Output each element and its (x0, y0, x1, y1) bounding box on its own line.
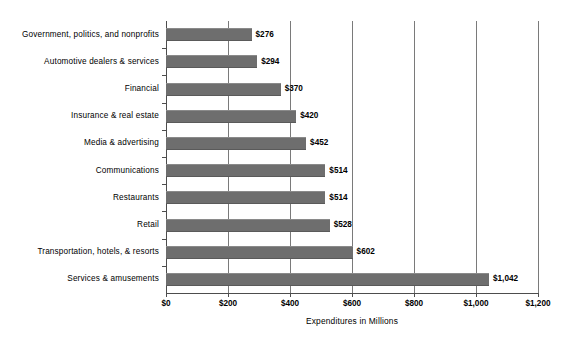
y-axis-tick (162, 48, 166, 49)
y-axis-tick (162, 75, 166, 76)
bar-value-label: $452 (310, 138, 328, 148)
bar (166, 246, 353, 259)
x-axis-tick (414, 293, 415, 297)
x-axis-tick (538, 293, 539, 297)
y-axis-tick (162, 157, 166, 158)
bar-value-label: $294 (261, 57, 279, 67)
category-label: Media & advertising (0, 138, 159, 148)
x-axis-tick-labels: $0$200$400$600$800$1,000$1,200 (0, 299, 569, 313)
bar-value-label: $602 (357, 247, 375, 257)
bar-value-label: $528 (334, 220, 352, 230)
y-axis-tick (162, 266, 166, 267)
category-label: Services & amusements (0, 274, 159, 284)
category-axis-labels: Government, politics, and nonprofitsAuto… (0, 21, 163, 293)
bar (166, 110, 296, 123)
x-axis-tick (476, 293, 477, 297)
bar-value-label: $514 (329, 193, 347, 203)
x-axis-tick (352, 293, 353, 297)
bar-value-label: $1,042 (493, 274, 518, 284)
bar (166, 55, 257, 68)
gridline (538, 21, 539, 293)
gridline (414, 21, 415, 293)
x-axis-tick-label: $800 (405, 299, 423, 309)
bar-value-label: $276 (256, 30, 274, 40)
x-axis-tick-label: $200 (219, 299, 237, 309)
bar (166, 191, 325, 204)
plot-area: $276$294$370$420$452$514$514$528$602$1,0… (166, 21, 538, 293)
x-axis-tick-label: $1,000 (463, 299, 488, 309)
bar-value-label: $420 (300, 111, 318, 121)
x-axis-tick-label: $400 (281, 299, 299, 309)
category-label: Retail (0, 220, 159, 230)
category-label: Insurance & real estate (0, 111, 159, 121)
x-axis-tick (290, 293, 291, 297)
category-label: Government, politics, and nonprofits (0, 30, 159, 40)
x-axis-tick-label: $1,200 (525, 299, 550, 309)
y-axis-tick (162, 130, 166, 131)
bar-value-label: $370 (285, 84, 303, 94)
y-axis-tick (162, 103, 166, 104)
y-axis-tick (162, 239, 166, 240)
category-label: Automotive dealers & services (0, 57, 159, 67)
gridline (476, 21, 477, 293)
x-axis-title: Expenditures in Millions (166, 316, 538, 327)
x-axis-tick (228, 293, 229, 297)
bar (166, 219, 330, 232)
x-axis-tick-label: $0 (161, 299, 170, 309)
x-axis-tick-label: $600 (343, 299, 361, 309)
category-label: Communications (0, 166, 159, 176)
bar-chart: Government, politics, and nonprofitsAuto… (0, 0, 569, 346)
x-axis-tick (166, 293, 167, 297)
bar (166, 28, 252, 41)
bar (166, 273, 489, 286)
category-label: Transportation, hotels, & resorts (0, 247, 159, 257)
bar (166, 164, 325, 177)
y-axis-tick (162, 184, 166, 185)
bar-value-label: $514 (329, 166, 347, 176)
bar (166, 83, 281, 96)
bar (166, 137, 306, 150)
category-label: Restaurants (0, 193, 159, 203)
y-axis-tick (162, 211, 166, 212)
category-label: Financial (0, 84, 159, 94)
